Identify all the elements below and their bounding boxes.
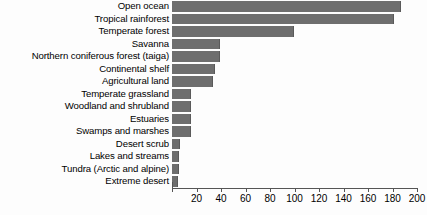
bar (172, 39, 220, 50)
category-label-row: Temperate forest (0, 25, 169, 38)
x-tick (417, 188, 418, 192)
category-label: Temperate forest (99, 25, 169, 38)
x-tick-label: 200 (409, 193, 426, 204)
category-label-row: Estuaries (0, 113, 169, 126)
x-tick-label: 20 (191, 193, 202, 204)
bar-row (172, 50, 417, 63)
bar (172, 164, 179, 175)
category-label: Open ocean (118, 0, 169, 13)
category-label-row: Open ocean (0, 0, 169, 13)
x-tick-label: 180 (384, 193, 401, 204)
bar (172, 26, 294, 37)
category-label: Woodland and shrubland (65, 100, 169, 113)
x-tick (246, 188, 247, 192)
x-tick-label: 160 (360, 193, 377, 204)
category-label-row: Swamps and marshes (0, 125, 169, 138)
bar (172, 151, 179, 162)
category-label: Savanna (132, 38, 169, 51)
category-label: Lakes and streams (90, 150, 169, 163)
x-tick-label: 40 (215, 193, 226, 204)
bar (172, 51, 220, 62)
biome-area-bar-chart: Open oceanTropical rainforestTemperate f… (0, 0, 427, 215)
x-tick (344, 188, 345, 192)
bar-row (172, 125, 417, 138)
bar-row (172, 63, 417, 76)
category-label-row: Temperate grassland (0, 88, 169, 101)
x-tick-label: 120 (311, 193, 328, 204)
category-label: Northern coniferous forest (taiga) (32, 50, 169, 63)
category-label: Estuaries (130, 113, 169, 126)
category-label: Desert scrub (116, 138, 169, 151)
bar-row (172, 150, 417, 163)
category-label-row: Extreme desert (0, 175, 169, 188)
x-tick-label: 140 (335, 193, 352, 204)
x-tick-label: 100 (286, 193, 303, 204)
x-tick (393, 188, 394, 192)
bar-row (172, 38, 417, 51)
category-label-row: Desert scrub (0, 138, 169, 151)
bar-row (172, 25, 417, 38)
category-label-row: Savanna (0, 38, 169, 51)
category-label: Temperate grassland (81, 88, 169, 101)
x-tick (221, 188, 222, 192)
x-tick (172, 188, 173, 192)
category-label-row: Northern coniferous forest (taiga) (0, 50, 169, 63)
category-label-row: Lakes and streams (0, 150, 169, 163)
category-label-row: Tropical rainforest (0, 13, 169, 26)
bar-row (172, 113, 417, 126)
bar (172, 89, 191, 100)
x-tick (197, 188, 198, 192)
bar (172, 114, 191, 125)
category-label-row: Continental shelf (0, 63, 169, 76)
x-tick (319, 188, 320, 192)
bar (172, 126, 191, 137)
bar-row (172, 75, 417, 88)
category-label-axis: Open oceanTropical rainforestTemperate f… (0, 0, 169, 188)
bar-row (172, 163, 417, 176)
bar (172, 64, 215, 75)
category-label: Swamps and marshes (76, 125, 169, 138)
bar-row (172, 100, 417, 113)
category-label: Tropical rainforest (94, 13, 169, 26)
category-label: Extreme desert (105, 175, 169, 188)
category-label: Continental shelf (99, 63, 169, 76)
bar (172, 139, 180, 150)
bar (172, 76, 213, 87)
bar-row (172, 138, 417, 151)
x-tick-label: 80 (264, 193, 275, 204)
x-tick (270, 188, 271, 192)
bar (172, 1, 401, 12)
bar-row (172, 88, 417, 101)
category-label: Tundra (Arctic and alpine) (62, 163, 169, 176)
plot-area (172, 0, 417, 188)
bar (172, 101, 191, 112)
bar-row (172, 13, 417, 26)
category-label-row: Agricultural land (0, 75, 169, 88)
category-label-row: Tundra (Arctic and alpine) (0, 163, 169, 176)
x-tick-label: 60 (240, 193, 251, 204)
bar-row (172, 175, 417, 188)
bar (172, 14, 394, 25)
x-tick (368, 188, 369, 192)
category-label: Agricultural land (102, 75, 169, 88)
bar-row (172, 0, 417, 13)
x-tick (295, 188, 296, 192)
category-label-row: Woodland and shrubland (0, 100, 169, 113)
